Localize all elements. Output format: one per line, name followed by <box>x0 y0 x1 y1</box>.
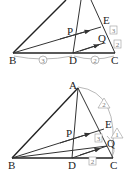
ratio-eq-bottom: 3 <box>97 135 101 143</box>
geometry-diagram: 3 2 3 2 B D C E P Q <box>0 0 133 171</box>
label-e-top: E <box>103 14 110 26</box>
label-c-bottom: C <box>110 159 117 171</box>
ratio-ec-bottom: 1 <box>115 131 119 139</box>
ratio-ae-bottom: 2 <box>102 101 106 109</box>
label-e-bottom: E <box>105 118 112 130</box>
label-d-top: D <box>69 54 77 66</box>
ratio-bd-top: 3 <box>41 57 45 65</box>
ratio-eq-top: 3 <box>112 27 116 35</box>
label-p-bottom: P <box>66 127 72 139</box>
label-a-bottom: A <box>69 79 77 91</box>
figure-top: 3 2 3 2 B D C E P Q <box>9 0 121 66</box>
ratio-dc-top: 2 <box>93 57 97 65</box>
segment-ad-bottom <box>72 88 78 158</box>
ratio-qc-top: 2 <box>116 41 120 49</box>
label-q-bottom: Q <box>107 137 115 149</box>
segment-bq-bottom <box>12 146 107 158</box>
label-p-top: P <box>67 25 73 37</box>
label-q-top: Q <box>98 32 106 44</box>
label-b-top: B <box>9 54 16 66</box>
label-b-bottom: B <box>8 159 15 171</box>
label-d-bottom: D <box>68 159 76 171</box>
arrow-dq-top <box>80 45 99 51</box>
label-c-top: C <box>111 54 118 66</box>
segment-ad-top <box>73 0 81 53</box>
figure-bottom: 2 1 3 2 A B D C E P Q <box>8 79 123 171</box>
arrow-be-bottom <box>60 134 90 144</box>
ratio-dc-bottom: 2 <box>91 158 95 166</box>
